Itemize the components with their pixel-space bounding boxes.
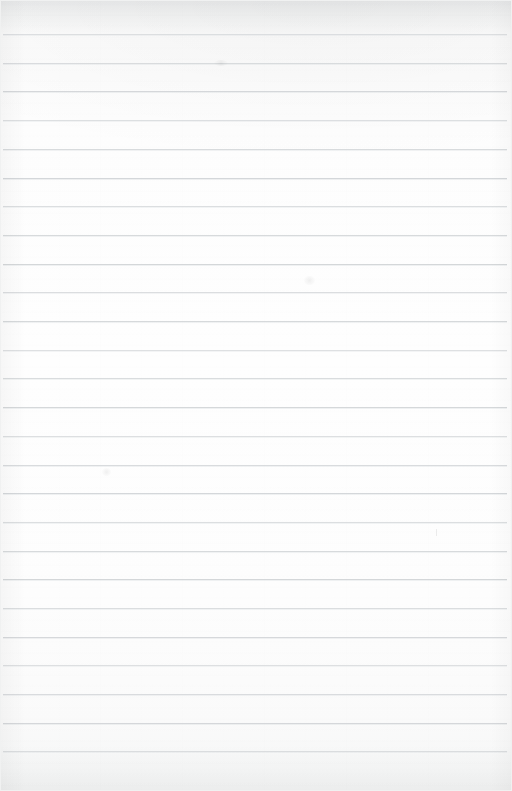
ruled-line [3,436,507,437]
ruled-line [3,120,507,121]
ruled-line [3,321,507,322]
scanned-page [0,0,512,791]
ruled-line [3,235,507,236]
ruled-line [3,407,507,408]
ruled-line [3,264,507,265]
ruled-line [3,751,507,752]
ruled-line [3,149,507,150]
ruled-line [3,34,507,35]
ruled-line [3,637,507,638]
ruled-line [3,91,507,92]
ruled-line [3,551,507,552]
ruled-line [3,350,507,351]
ruled-line [3,723,507,724]
ruled-line [3,178,507,179]
ruled-line [3,206,507,207]
ruled-line [3,694,507,695]
ruled-line [3,579,507,580]
ruled-line [3,493,507,494]
ruled-line [3,665,507,666]
ruled-line [3,608,507,609]
ruled-lines-group [0,0,512,791]
ruled-line [3,465,507,466]
ruled-line [3,522,507,523]
ruled-line [3,378,507,379]
ruled-line [3,292,507,293]
ruled-line [3,63,507,64]
